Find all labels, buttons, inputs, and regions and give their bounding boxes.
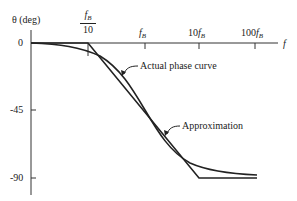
approximation-annotation: Approximation [182,121,243,131]
y-axis-label: θ (deg) [12,15,40,25]
x-tick-fb: fB [139,28,146,40]
x-axis-label: f [283,39,286,49]
x-tick-100fb: 100fB [241,28,263,40]
y-tick-90: -90 [10,173,23,183]
x-tick-10fb: 10fB [188,28,205,40]
x-tick-fb-over-10: fB 10 [80,10,96,35]
actual-curve-annotation: Actual phase curve [140,61,217,71]
y-tick-0: 0 [18,38,23,48]
y-tick-45: -45 [10,105,23,115]
